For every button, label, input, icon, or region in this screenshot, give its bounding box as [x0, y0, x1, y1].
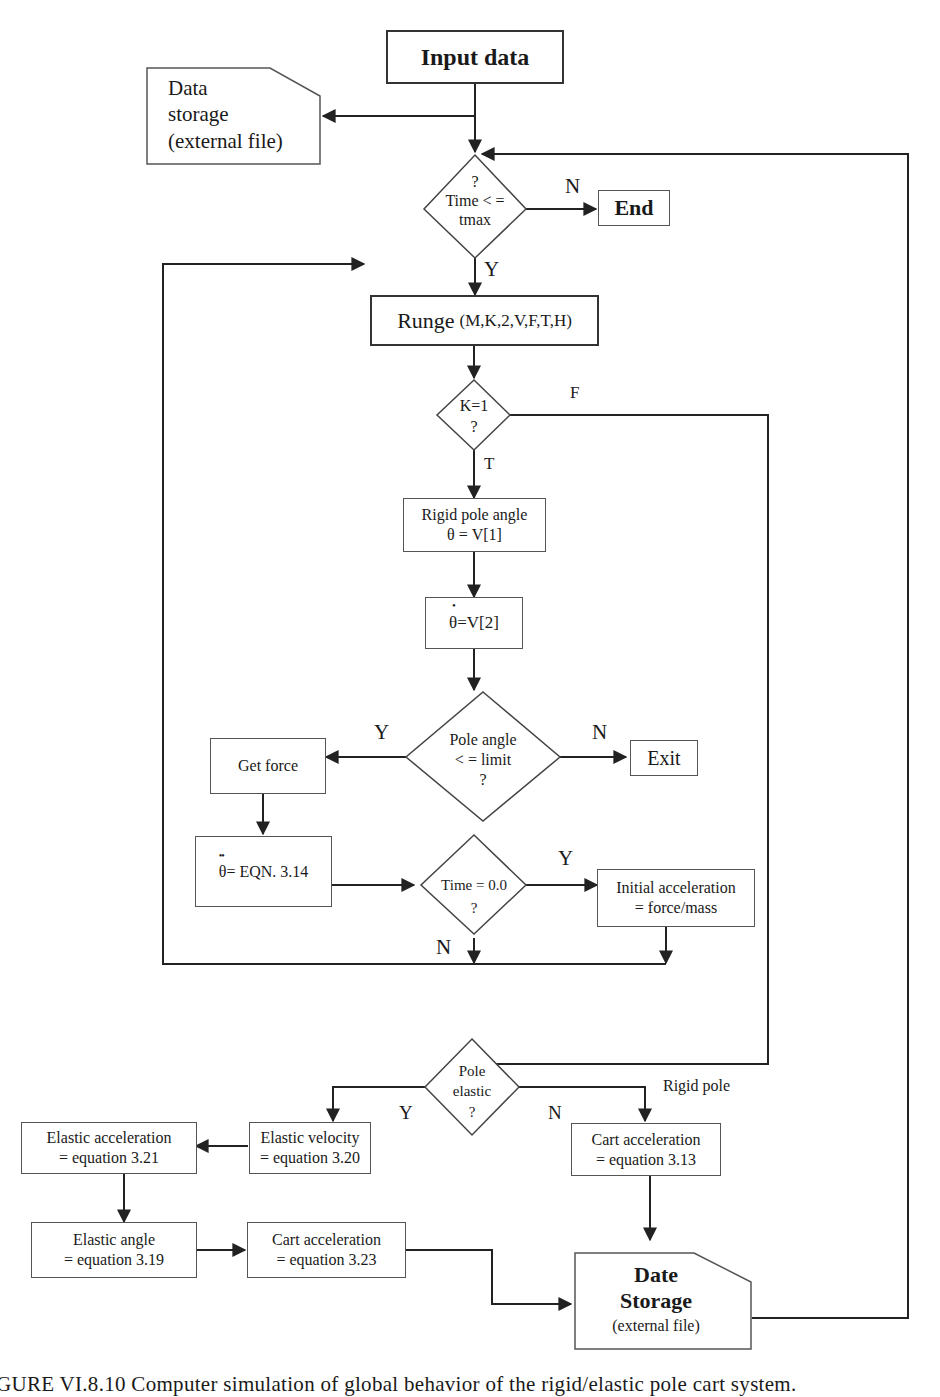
pole-elastic-line3: ?: [432, 1102, 512, 1122]
cart-accel-313-line1: Cart acceleration: [592, 1130, 701, 1150]
elastic-velocity-box: Elastic velocity = equation 3.20: [249, 1122, 371, 1174]
cart-accel-313-box: Cart acceleration = equation 3.13: [571, 1123, 721, 1176]
theta-dot-rest: =V[2]: [457, 612, 499, 633]
dot-accent: •: [452, 599, 456, 613]
figure-caption: GURE VI.8.10 Computer simulation of glob…: [0, 1372, 797, 1397]
time-zero-line2: ?: [418, 897, 530, 920]
pole-limit-line3: ?: [423, 770, 543, 790]
date-storage-line2: Storage: [580, 1288, 732, 1314]
pole-elastic-decision-text: Pole elastic ?: [432, 1061, 512, 1122]
initial-accel-box: Initial acceleration = force/mass: [597, 869, 755, 927]
exit-label: Exit: [647, 746, 680, 771]
time-decision-text: ? Time < = tmax: [430, 172, 520, 230]
pole-elastic-line1: Pole: [432, 1061, 512, 1081]
cart-accel-313-line2: = equation 3.13: [596, 1150, 696, 1170]
pole-limit-no-label: N: [592, 722, 607, 743]
time-decision-line1: ?: [430, 172, 520, 191]
elastic-angle-box: Elastic angle = equation 3.19: [31, 1222, 197, 1278]
runge-box: Runge (M,K,2,V,F,T,H): [370, 295, 599, 346]
get-force-label: Get force: [238, 756, 298, 776]
cart-accel-323-line1: Cart acceleration: [272, 1230, 381, 1250]
end-label: End: [614, 194, 653, 222]
time-decision-yes-label: Y: [484, 259, 499, 280]
rigid-angle-box: Rigid pole angle θ = V[1]: [403, 498, 546, 552]
pole-limit-line2: < = limit: [423, 750, 543, 770]
runge-args: (M,K,2,V,F,T,H): [460, 310, 572, 331]
k-decision-true-label: T: [484, 455, 494, 472]
date-storage-bottom-text: Date Storage (external file): [580, 1262, 732, 1337]
theta-dot-symbol-wrap: • θ: [449, 612, 457, 633]
initial-accel-line1: Initial acceleration: [616, 878, 735, 898]
k-decision-text: K=1 ?: [437, 396, 511, 438]
elastic-angle-line2: = equation 3.19: [64, 1250, 164, 1270]
rigid-angle-line2: θ = V[1]: [447, 525, 502, 545]
theta-dot-box: • θ =V[2]: [425, 597, 523, 649]
time-zero-line1: Time = 0.0: [418, 874, 530, 897]
pole-elastic-no-label: N: [548, 1103, 562, 1122]
theta-ddot-rest: = EQN. 3.14: [226, 862, 308, 882]
pole-limit-line1: Pole angle: [423, 730, 543, 750]
theta-symbol-ddot: θ: [219, 863, 227, 880]
elastic-accel-box: Elastic acceleration = equation 3.21: [21, 1122, 197, 1174]
elastic-accel-line2: = equation 3.21: [59, 1148, 159, 1168]
end-box: End: [598, 190, 670, 226]
theta-ddot-symbol-wrap: •• θ: [219, 862, 227, 882]
theta-ddot-box: •• θ = EQN. 3.14: [195, 836, 332, 907]
input-data-label: Input data: [421, 42, 530, 72]
time-zero-decision-text: Time = 0.0 ?: [418, 874, 530, 921]
elastic-angle-line1: Elastic angle: [73, 1230, 155, 1250]
time-decision-line3: tmax: [430, 210, 520, 229]
time-zero-yes-label: Y: [558, 848, 573, 869]
date-storage-line1: Date: [580, 1262, 732, 1288]
data-storage-line1: Data: [168, 75, 283, 101]
rigid-pole-note: Rigid pole: [663, 1078, 730, 1094]
rigid-angle-line1: Rigid pole angle: [422, 505, 528, 525]
elastic-accel-line1: Elastic acceleration: [47, 1128, 172, 1148]
pole-elastic-yes-label: Y: [399, 1103, 413, 1122]
data-storage-top-text: Data storage (external file): [168, 75, 283, 154]
k-decision-false-label: F: [570, 384, 579, 401]
get-force-box: Get force: [210, 738, 326, 794]
cart-accel-323-box: Cart acceleration = equation 3.23: [247, 1222, 406, 1278]
k-decision-line2: ?: [437, 417, 511, 438]
time-decision-line2: Time < =: [430, 191, 520, 210]
elastic-velocity-line2: = equation 3.20: [260, 1148, 360, 1168]
initial-accel-line2: = force/mass: [635, 898, 717, 918]
input-data-box: Input data: [386, 30, 564, 84]
time-zero-no-label: N: [436, 937, 451, 958]
data-storage-line2: storage: [168, 101, 283, 127]
double-dot-accent: ••: [219, 850, 224, 863]
theta-symbol: θ: [449, 613, 457, 632]
elastic-velocity-line1: Elastic velocity: [260, 1128, 359, 1148]
pole-limit-decision-text: Pole angle < = limit ?: [423, 730, 543, 790]
cart-accel-323-line2: = equation 3.23: [276, 1250, 376, 1270]
runge-name: Runge: [397, 307, 454, 335]
date-storage-line3: (external file): [580, 1315, 732, 1337]
exit-box: Exit: [630, 740, 698, 776]
data-storage-line3: (external file): [168, 128, 283, 154]
time-decision-no-label: N: [565, 176, 580, 197]
pole-elastic-line2: elastic: [432, 1081, 512, 1101]
pole-limit-yes-label: Y: [374, 722, 389, 743]
k-decision-line1: K=1: [437, 396, 511, 417]
